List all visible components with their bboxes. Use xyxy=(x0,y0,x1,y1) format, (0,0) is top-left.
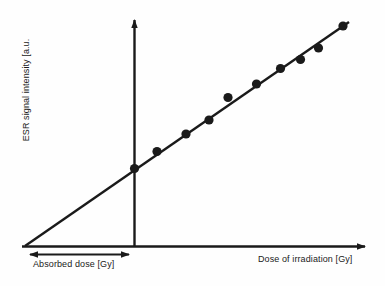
data-point xyxy=(223,93,232,102)
data-point xyxy=(204,115,213,124)
data-point xyxy=(252,79,261,88)
data-point xyxy=(152,147,161,156)
data-point xyxy=(276,64,285,73)
data-point xyxy=(130,164,139,173)
x-axis-label-absorbed-dose: Absorbed dose [Gy] xyxy=(33,259,114,269)
esr-dose-response-figure: Dose of irradiation [Gy] Absorbed dose [… xyxy=(0,0,385,286)
plot-canvas xyxy=(0,0,385,286)
data-point xyxy=(181,129,190,138)
data-point xyxy=(296,55,305,64)
data-point xyxy=(314,43,323,52)
x-axis-label-right: Dose of irradiation [Gy] xyxy=(258,254,352,264)
data-point xyxy=(338,21,347,30)
y-axis-label: ESR signal intensity [a.u. xyxy=(21,20,31,160)
